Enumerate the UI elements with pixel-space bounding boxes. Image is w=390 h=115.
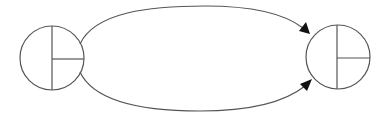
left-node[interactable] <box>20 26 84 90</box>
right-node-circle <box>306 25 370 89</box>
diagram-canvas <box>0 0 390 115</box>
top-edge-arrowhead-icon <box>299 22 310 34</box>
top-edge-path <box>80 6 303 44</box>
bottom-edge-path <box>80 72 305 111</box>
right-node[interactable] <box>306 25 370 89</box>
top-edge[interactable] <box>80 6 310 44</box>
bottom-edge[interactable] <box>80 72 312 111</box>
bottom-edge-arrowhead-icon <box>300 79 312 91</box>
